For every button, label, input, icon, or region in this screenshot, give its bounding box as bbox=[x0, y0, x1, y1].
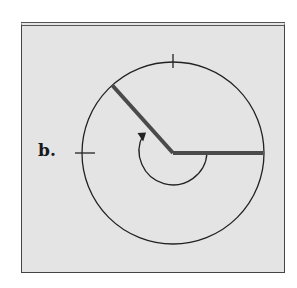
figure-label: b. bbox=[38, 140, 56, 160]
arrowhead-icon bbox=[137, 129, 150, 142]
terminal-side-ray bbox=[112, 85, 173, 153]
rotation-arc bbox=[139, 135, 207, 185]
